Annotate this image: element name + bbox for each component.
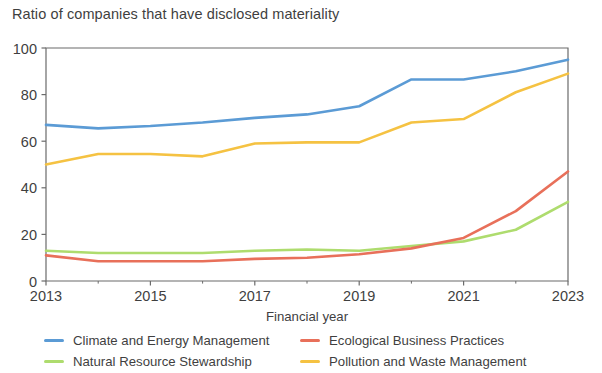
series-line bbox=[46, 202, 568, 253]
chart-legend: Climate and Energy Management Ecological… bbox=[0, 330, 602, 373]
y-axis-tick-label: 80 bbox=[21, 87, 37, 103]
y-axis-tick-label: 20 bbox=[21, 227, 37, 243]
legend-item-climate-and-energy-management: Climate and Energy Management bbox=[0, 333, 292, 348]
legend-label: Climate and Energy Management bbox=[73, 333, 269, 348]
legend-item-pollution-and-waste-management: Pollution and Waste Management bbox=[292, 354, 582, 369]
x-axis-tick-label: 2015 bbox=[134, 288, 166, 304]
y-axis-tick-label: 60 bbox=[21, 134, 37, 150]
legend-swatch-icon bbox=[300, 339, 320, 342]
legend-swatch-icon bbox=[44, 360, 64, 363]
legend-label: Ecological Business Practices bbox=[329, 333, 504, 348]
series-line bbox=[46, 60, 568, 129]
series-line bbox=[46, 171, 568, 261]
legend-item-natural-resource-stewardship: Natural Resource Stewardship bbox=[0, 354, 292, 369]
x-axis-label: Financial year bbox=[266, 309, 349, 324]
legend-label: Pollution and Waste Management bbox=[329, 354, 526, 369]
line-chart: Ratio of companies that have disclosed m… bbox=[0, 0, 602, 373]
y-axis-tick-label: 100 bbox=[13, 41, 37, 57]
series-line bbox=[46, 74, 568, 165]
x-axis-tick-label: 2019 bbox=[343, 288, 375, 304]
legend-item-ecological-business-practices: Ecological Business Practices bbox=[292, 333, 582, 348]
legend-swatch-icon bbox=[44, 339, 64, 342]
x-axis-tick-label: 2017 bbox=[239, 288, 271, 304]
y-axis-tick-label: 40 bbox=[21, 180, 37, 196]
legend-label: Natural Resource Stewardship bbox=[73, 354, 252, 369]
plot-area: 020406080100201320152017201920212023Fina… bbox=[0, 0, 602, 373]
x-axis-tick-label: 2023 bbox=[552, 288, 584, 304]
legend-swatch-icon bbox=[300, 360, 320, 363]
x-axis-tick-label: 2013 bbox=[30, 288, 62, 304]
x-axis-tick-label: 2021 bbox=[447, 288, 479, 304]
